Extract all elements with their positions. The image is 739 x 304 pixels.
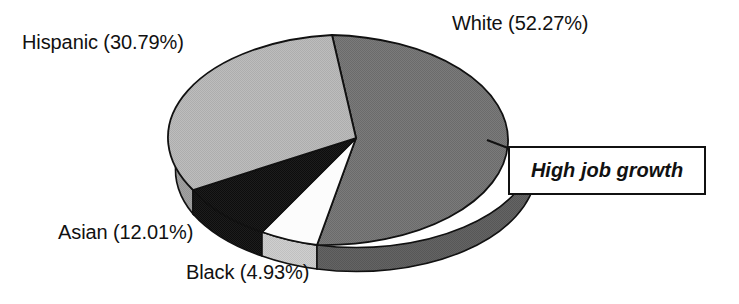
pie-label-white: White (52.27%) (452, 12, 588, 35)
pie-label-black: Black (4.93%) (186, 261, 309, 284)
pie-chart: White (52.27%) Hispanic (30.79%) Asian (… (0, 0, 739, 304)
callout-label: High job growth (531, 159, 683, 182)
high-job-growth-callout: High job growth (508, 146, 706, 195)
pie-label-hispanic: Hispanic (30.79%) (22, 31, 184, 54)
pie-label-asian: Asian (12.01%) (58, 221, 193, 244)
